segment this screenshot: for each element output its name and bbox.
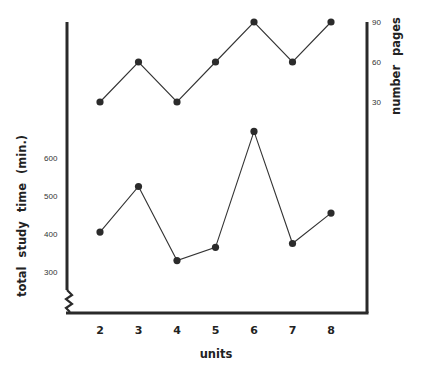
- x-tick-label: 6: [250, 324, 258, 337]
- right-tick-label: 30: [372, 98, 381, 107]
- data-point: [289, 58, 296, 65]
- data-point: [289, 240, 296, 247]
- right-axis-label: number pages: [389, 17, 403, 115]
- x-axis-label: units: [200, 347, 233, 361]
- data-point: [212, 58, 219, 65]
- chart: 3004005006003060902345678unitstotal stud…: [0, 0, 425, 367]
- x-tick-label: 2: [96, 324, 104, 337]
- data-point: [250, 128, 257, 135]
- data-point: [327, 210, 334, 217]
- left-axis-label: total study time (min.): [15, 135, 29, 297]
- data-point: [96, 229, 103, 236]
- right-tick-label: 90: [372, 18, 381, 27]
- left-tick-label: 500: [44, 192, 58, 201]
- series-line: [100, 131, 331, 260]
- x-tick-label: 4: [173, 324, 181, 337]
- axes: [66, 22, 369, 313]
- data-point: [173, 98, 180, 105]
- left-tick-label: 400: [44, 230, 58, 239]
- right-tick-label: 60: [372, 58, 381, 67]
- data-point: [327, 18, 334, 25]
- axis-break-zigzag: [66, 290, 72, 312]
- left-tick-label: 600: [44, 154, 58, 163]
- data-point: [135, 58, 142, 65]
- x-tick-label: 3: [135, 324, 143, 337]
- data-point: [96, 98, 103, 105]
- data-point: [135, 183, 142, 190]
- x-tick-label: 7: [289, 324, 297, 337]
- plot-series: [96, 18, 334, 264]
- x-tick-label: 5: [212, 324, 220, 337]
- data-point: [250, 18, 257, 25]
- data-point: [212, 244, 219, 251]
- left-tick-label: 300: [44, 268, 58, 277]
- x-tick-label: 8: [327, 324, 335, 337]
- data-point: [173, 257, 180, 264]
